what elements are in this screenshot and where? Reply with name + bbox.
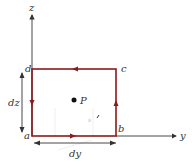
point-p-label: P: [79, 95, 87, 106]
y-axis: y: [116, 130, 186, 141]
dy-label: dy: [69, 148, 81, 159]
point-p-dot: [72, 98, 77, 103]
arrow-right-icon: [70, 134, 76, 139]
dimension-arrow-left-icon: [34, 141, 40, 146]
diagram-canvas: s z y a b c d P dz dy: [0, 0, 193, 164]
z-axis-label: z: [28, 2, 35, 13]
dz-dimension: dz: [8, 72, 25, 133]
y-axis-label: y: [179, 130, 186, 141]
arrow-up-icon: [114, 100, 119, 106]
dy-dimension: dy: [34, 141, 116, 160]
dimension-arrow-up-icon: [20, 72, 25, 78]
corner-label-d: d: [25, 63, 31, 74]
dz-label: dz: [8, 97, 20, 108]
arrow-left-icon: [72, 67, 78, 72]
faint-mark: s: [88, 116, 91, 123]
corner-label-c: c: [121, 63, 127, 74]
dimension-arrow-right-icon: [110, 141, 116, 146]
arrow-down-icon: [30, 100, 35, 106]
corner-label-b: b: [118, 123, 124, 134]
corner-label-a: a: [24, 130, 30, 141]
faint-tick: [97, 115, 99, 118]
